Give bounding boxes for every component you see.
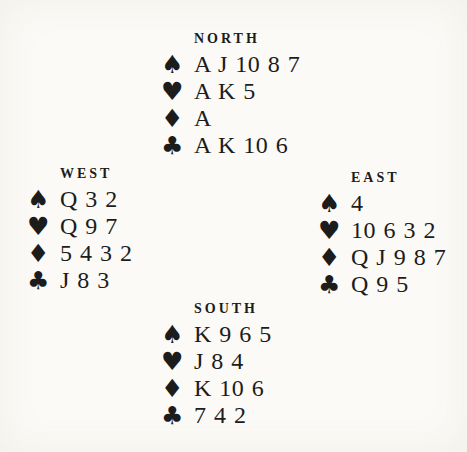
card-values: A J 10 8 7 bbox=[194, 51, 300, 78]
suit-row-hearts: ♥ 10 6 3 2 bbox=[318, 217, 446, 244]
card-values: K 9 6 5 bbox=[194, 321, 272, 348]
hand-label-west: WEST bbox=[60, 166, 133, 182]
card-values: J 8 3 bbox=[60, 267, 110, 294]
card-values: Q 9 7 bbox=[60, 213, 118, 240]
card-values: Q J 9 8 7 bbox=[351, 244, 446, 271]
diamond-icon: ♦ bbox=[318, 244, 351, 271]
spade-icon: ♠ bbox=[161, 51, 194, 78]
club-icon: ♣ bbox=[161, 402, 194, 429]
card-values: 10 6 3 2 bbox=[351, 217, 436, 244]
card-values: 5 4 3 2 bbox=[60, 240, 133, 267]
card-values: A bbox=[194, 105, 212, 132]
hand-label-south: SOUTH bbox=[194, 301, 272, 317]
card-values: A K 10 6 bbox=[194, 132, 288, 159]
suit-row-clubs: ♣ A K 10 6 bbox=[161, 132, 300, 159]
suit-row-hearts: ♥ J 8 4 bbox=[161, 348, 272, 375]
hand-north: NORTH ♠ A J 10 8 7 ♥ A K 5 ♦ A ♣ A K 10 … bbox=[161, 31, 300, 159]
suit-row-clubs: ♣ Q 9 5 bbox=[318, 271, 446, 298]
card-values: Q 9 5 bbox=[351, 271, 409, 298]
card-values: 4 bbox=[351, 190, 364, 217]
suit-row-hearts: ♥ A K 5 bbox=[161, 78, 300, 105]
club-icon: ♣ bbox=[318, 271, 351, 298]
heart-icon: ♥ bbox=[318, 217, 351, 244]
suit-row-spades: ♠ Q 3 2 bbox=[27, 186, 133, 213]
spade-icon: ♠ bbox=[27, 186, 60, 213]
card-values: Q 3 2 bbox=[60, 186, 118, 213]
heart-icon: ♥ bbox=[27, 213, 60, 240]
hand-south: SOUTH ♠ K 9 6 5 ♥ J 8 4 ♦ K 10 6 ♣ 7 4 2 bbox=[161, 301, 272, 429]
heart-icon: ♥ bbox=[161, 78, 194, 105]
suit-row-clubs: ♣ J 8 3 bbox=[27, 267, 133, 294]
hand-west: WEST ♠ Q 3 2 ♥ Q 9 7 ♦ 5 4 3 2 ♣ J 8 3 bbox=[27, 166, 133, 294]
suit-row-hearts: ♥ Q 9 7 bbox=[27, 213, 133, 240]
suit-row-diamonds: ♦ K 10 6 bbox=[161, 375, 272, 402]
hand-label-north: NORTH bbox=[194, 31, 300, 47]
diamond-icon: ♦ bbox=[161, 105, 194, 132]
suit-row-diamonds: ♦ A bbox=[161, 105, 300, 132]
suit-row-diamonds: ♦ Q J 9 8 7 bbox=[318, 244, 446, 271]
diamond-icon: ♦ bbox=[27, 240, 60, 267]
card-values: A K 5 bbox=[194, 78, 256, 105]
spade-icon: ♠ bbox=[318, 190, 351, 217]
spade-icon: ♠ bbox=[161, 321, 194, 348]
club-icon: ♣ bbox=[161, 132, 194, 159]
suit-row-spades: ♠ A J 10 8 7 bbox=[161, 51, 300, 78]
hand-label-east: EAST bbox=[351, 170, 446, 186]
card-values: J 8 4 bbox=[194, 348, 244, 375]
suit-row-spades: ♠ K 9 6 5 bbox=[161, 321, 272, 348]
club-icon: ♣ bbox=[27, 267, 60, 294]
card-values: K 10 6 bbox=[194, 375, 264, 402]
diamond-icon: ♦ bbox=[161, 375, 194, 402]
heart-icon: ♥ bbox=[161, 348, 194, 375]
card-values: 7 4 2 bbox=[194, 402, 247, 429]
suit-row-diamonds: ♦ 5 4 3 2 bbox=[27, 240, 133, 267]
suit-row-spades: ♠ 4 bbox=[318, 190, 446, 217]
bridge-deal-diagram: NORTH ♠ A J 10 8 7 ♥ A K 5 ♦ A ♣ A K 10 … bbox=[0, 0, 467, 452]
hand-east: EAST ♠ 4 ♥ 10 6 3 2 ♦ Q J 9 8 7 ♣ Q 9 5 bbox=[318, 170, 446, 298]
suit-row-clubs: ♣ 7 4 2 bbox=[161, 402, 272, 429]
